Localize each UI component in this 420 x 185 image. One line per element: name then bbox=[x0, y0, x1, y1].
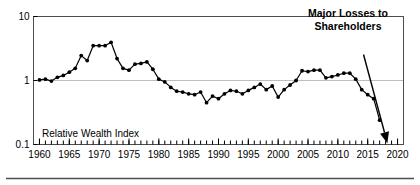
data-point-1990 bbox=[217, 97, 221, 101]
data-point-2012 bbox=[348, 71, 352, 75]
data-point-1977 bbox=[139, 62, 143, 66]
data-point-2015 bbox=[366, 93, 370, 97]
y-tick-label-1: 1 bbox=[24, 75, 30, 86]
data-point-1993 bbox=[235, 89, 239, 93]
x-tick-label-1960: 1960 bbox=[28, 149, 51, 160]
data-point-1982 bbox=[169, 86, 173, 90]
data-point-1964 bbox=[61, 74, 65, 78]
annotation-line-1: Major Losses to bbox=[308, 7, 388, 19]
data-point-1986 bbox=[193, 93, 197, 97]
series-inline-label: Relative Wealth Index bbox=[42, 128, 139, 139]
data-point-1971 bbox=[103, 44, 107, 48]
relative-wealth-index-chart: 1010.1 196019651970197519801985199019952… bbox=[0, 0, 420, 185]
data-point-1972 bbox=[109, 40, 113, 44]
data-point-2014 bbox=[360, 88, 364, 92]
data-point-1999 bbox=[270, 84, 274, 88]
data-point-2006 bbox=[312, 68, 316, 72]
data-point-1989 bbox=[211, 94, 215, 98]
data-point-1963 bbox=[55, 75, 59, 79]
data-point-1996 bbox=[252, 86, 256, 90]
x-tick-label-2010: 2010 bbox=[327, 149, 350, 160]
data-point-2007 bbox=[318, 68, 322, 72]
data-point-1974 bbox=[121, 66, 125, 70]
data-point-1985 bbox=[187, 92, 191, 96]
x-tick-label-1970: 1970 bbox=[88, 149, 111, 160]
data-point-1984 bbox=[181, 90, 185, 94]
data-point-2008 bbox=[324, 76, 328, 80]
data-point-1966 bbox=[73, 66, 77, 70]
x-tick-label-1995: 1995 bbox=[237, 149, 260, 160]
data-point-1975 bbox=[127, 68, 131, 72]
data-point-2011 bbox=[342, 71, 346, 75]
y-tick-label-10: 10 bbox=[18, 11, 30, 22]
data-point-2003 bbox=[294, 79, 298, 83]
data-point-1961 bbox=[44, 77, 48, 81]
data-point-1979 bbox=[151, 67, 155, 71]
data-point-2010 bbox=[336, 73, 340, 77]
data-point-1965 bbox=[67, 70, 71, 74]
data-point-1994 bbox=[240, 92, 244, 96]
x-tick-label-1975: 1975 bbox=[118, 149, 141, 160]
x-tick-label-2005: 2005 bbox=[297, 149, 320, 160]
data-point-2004 bbox=[300, 69, 304, 73]
data-point-2000 bbox=[276, 95, 280, 99]
data-point-2005 bbox=[306, 70, 310, 74]
data-point-1973 bbox=[115, 57, 119, 61]
x-tick-label-2015: 2015 bbox=[357, 149, 380, 160]
data-point-1969 bbox=[91, 44, 95, 48]
data-point-2009 bbox=[330, 75, 334, 79]
x-tick-label-2000: 2000 bbox=[267, 149, 290, 160]
data-point-1987 bbox=[199, 90, 203, 94]
data-point-1983 bbox=[175, 89, 179, 93]
x-tick-label-1985: 1985 bbox=[178, 149, 201, 160]
data-point-1968 bbox=[85, 59, 89, 63]
x-tick-label-1965: 1965 bbox=[58, 149, 81, 160]
data-point-1997 bbox=[258, 82, 262, 86]
data-point-1992 bbox=[229, 89, 233, 93]
data-point-1962 bbox=[50, 79, 54, 83]
data-point-1960 bbox=[38, 78, 42, 82]
data-point-1998 bbox=[264, 88, 268, 92]
x-tick-label-2020: 2020 bbox=[386, 149, 409, 160]
x-tick-label-1980: 1980 bbox=[148, 149, 171, 160]
annotation-line-2: Shareholders bbox=[314, 20, 381, 32]
data-point-2001 bbox=[282, 88, 286, 92]
data-point-1988 bbox=[205, 101, 209, 105]
data-point-1970 bbox=[97, 44, 101, 48]
data-point-1980 bbox=[157, 77, 161, 81]
data-point-1981 bbox=[163, 80, 167, 84]
x-tick-label-1990: 1990 bbox=[207, 149, 230, 160]
data-point-1978 bbox=[145, 60, 149, 64]
data-point-1991 bbox=[223, 92, 227, 96]
data-point-1967 bbox=[79, 54, 83, 58]
data-point-2002 bbox=[288, 83, 292, 87]
chart-figure: 1010.1 196019651970197519801985199019952… bbox=[0, 0, 420, 185]
data-point-1995 bbox=[246, 89, 250, 93]
data-point-2013 bbox=[354, 77, 358, 81]
data-point-1976 bbox=[133, 62, 137, 66]
